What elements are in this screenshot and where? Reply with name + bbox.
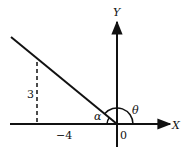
y-axis-label: Y [113,6,122,19]
x-axis-label: X [171,119,181,132]
theta-label: θ [132,104,139,117]
vertical-segment-label: 3 [27,88,34,101]
alpha-label: α [94,110,102,123]
origin-label: 0 [120,129,127,142]
angle-diagram: Y X 0 3 −4 α θ [0,0,190,152]
horizontal-segment-label: −4 [56,129,72,142]
theta-arc [105,108,133,124]
